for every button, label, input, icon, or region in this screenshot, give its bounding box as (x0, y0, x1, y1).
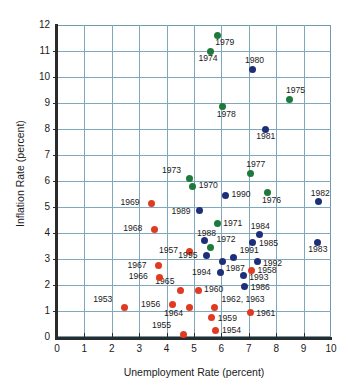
data-point[interactable] (207, 244, 214, 251)
data-point[interactable] (180, 331, 187, 338)
x-tick-label: 5 (182, 344, 206, 354)
data-point[interactable] (195, 287, 202, 294)
data-point-label: 1990 (232, 190, 251, 199)
data-point[interactable] (151, 226, 158, 233)
x-tick-label: 2 (100, 344, 124, 354)
y-tick-label: 12 (22, 20, 50, 30)
data-point-label: 1983 (308, 245, 327, 254)
data-point[interactable] (186, 304, 193, 311)
data-point-label: 1962, 1963 (222, 295, 265, 304)
data-point[interactable] (121, 304, 128, 311)
x-tick-label: 1 (72, 344, 96, 354)
data-point[interactable] (241, 283, 248, 290)
data-point[interactable] (189, 183, 196, 190)
y-tick-mark (53, 103, 57, 104)
x-tick-label: 4 (155, 344, 179, 354)
x-tick-mark (84, 333, 85, 337)
gridline-horizontal (57, 233, 331, 234)
y-tick-mark (53, 285, 57, 286)
y-tick-mark (53, 181, 57, 182)
x-tick-mark (249, 333, 250, 337)
data-point-label: 1982 (311, 189, 330, 198)
y-tick-mark (53, 155, 57, 156)
gridline-horizontal (57, 285, 331, 286)
x-tick-mark (112, 333, 113, 337)
data-point-label: 1960 (204, 285, 223, 294)
data-point[interactable] (211, 304, 218, 311)
data-point-label: 1975 (286, 86, 305, 95)
x-tick-mark (139, 333, 140, 337)
x-tick-label: 6 (209, 344, 233, 354)
data-point[interactable] (169, 301, 176, 308)
data-point-label: 1985 (259, 239, 278, 248)
data-point[interactable] (222, 192, 229, 199)
data-point[interactable] (286, 96, 293, 103)
data-point-label: 1971 (223, 219, 242, 228)
data-point-label: 1974 (198, 54, 217, 63)
data-point-label: 1956 (141, 300, 160, 309)
data-point-label: 1973 (162, 166, 181, 175)
data-point[interactable] (177, 287, 184, 294)
y-tick-label: 2 (22, 280, 50, 290)
data-point[interactable] (247, 309, 254, 316)
data-point-label: 1970 (199, 181, 218, 190)
x-tick-mark (194, 333, 195, 337)
data-point-label: 1955 (152, 321, 171, 330)
y-tick-label: 3 (22, 254, 50, 264)
data-point-label: 1980 (245, 56, 264, 65)
data-point-label: 1964 (164, 309, 183, 318)
gridline-horizontal (57, 103, 331, 104)
x-tick-mark (304, 333, 305, 337)
data-point-label: 1987 (226, 264, 245, 273)
y-tick-label: 7 (22, 150, 50, 160)
data-point-label: 1992 (263, 259, 282, 268)
gridline-horizontal (57, 181, 331, 182)
y-tick-mark (53, 207, 57, 208)
data-point-label: 1991 (240, 246, 259, 255)
data-point-label: 1961 (256, 309, 275, 318)
data-point[interactable] (155, 262, 162, 269)
x-tick-mark (167, 333, 168, 337)
x-tick-label: 0 (45, 344, 69, 354)
data-point[interactable] (217, 269, 224, 276)
data-point[interactable] (156, 274, 163, 281)
data-point[interactable] (203, 252, 210, 259)
gridline-horizontal (57, 129, 331, 130)
y-tick-label: 1 (22, 306, 50, 316)
y-tick-mark (53, 259, 57, 260)
data-point[interactable] (256, 231, 263, 238)
gridline-horizontal (57, 51, 331, 52)
y-tick-label: 9 (22, 98, 50, 108)
y-tick-mark (53, 233, 57, 234)
y-tick-label: 5 (22, 202, 50, 212)
y-tick-label: 6 (22, 176, 50, 186)
data-point[interactable] (247, 170, 254, 177)
data-point-label: 1986 (251, 283, 270, 292)
data-point[interactable] (254, 258, 261, 265)
data-point-label: 1969 (121, 198, 140, 207)
data-point-label: 1954 (222, 326, 241, 335)
x-axis-title: Unemployment Rate (percent) (57, 366, 331, 378)
y-tick-label: 10 (22, 72, 50, 82)
data-point-label: 1984 (251, 222, 270, 231)
gridline-horizontal (57, 207, 331, 208)
y-tick-mark (53, 129, 57, 130)
data-point-label: 1978 (217, 110, 236, 119)
y-tick-label: 8 (22, 124, 50, 134)
data-point[interactable] (148, 200, 155, 207)
data-point-label: 1953 (93, 295, 112, 304)
data-point-label: 1959 (218, 314, 237, 323)
y-tick-mark (53, 51, 57, 52)
x-tick-label: 8 (264, 344, 288, 354)
y-tick-label: 4 (22, 228, 50, 238)
data-point-label: 1968 (123, 224, 142, 233)
x-tick-label: 9 (292, 344, 316, 354)
data-point-label: 1967 (127, 261, 146, 270)
data-point-label: 1979 (215, 38, 234, 47)
data-point-label: 1994 (192, 268, 211, 277)
data-point-label: 1988 (197, 229, 216, 238)
gridline-horizontal (57, 77, 331, 78)
data-point-label: 1957 (159, 246, 178, 255)
data-point-label: 1966 (129, 272, 148, 281)
x-tick-mark (276, 333, 277, 337)
